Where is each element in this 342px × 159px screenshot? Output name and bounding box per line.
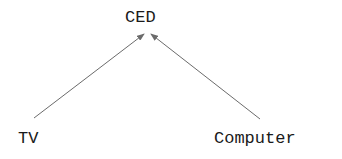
node-tv: TV [18, 130, 38, 147]
edge-tv-to-ced [34, 34, 144, 118]
node-ced: CED [125, 9, 156, 26]
node-computer: Computer [214, 130, 296, 147]
edge-computer-to-ced [151, 34, 260, 119]
